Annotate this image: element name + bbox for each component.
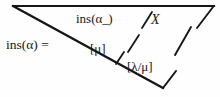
lhs-label: ins(α) = xyxy=(6,38,49,52)
math-figure: ins(α) = ins(α_) X [μ] [λ/μ] xyxy=(0,0,220,97)
top-cell-label-subscript: _) xyxy=(102,11,112,26)
mu-label: [μ] xyxy=(90,42,106,55)
x-label: X xyxy=(151,13,160,27)
slash-tick-3 xyxy=(175,27,191,55)
slash-tick-2 xyxy=(128,35,139,52)
lambda-mu-label: [λ/μ] xyxy=(127,60,153,73)
hypotenuse-tick xyxy=(116,52,124,64)
top-cell-label: ins(α_) xyxy=(76,12,112,25)
bottom-vertex-kick xyxy=(163,71,176,88)
slash-tick-4 xyxy=(197,7,213,28)
top-cell-label-text: ins(α xyxy=(76,11,102,26)
